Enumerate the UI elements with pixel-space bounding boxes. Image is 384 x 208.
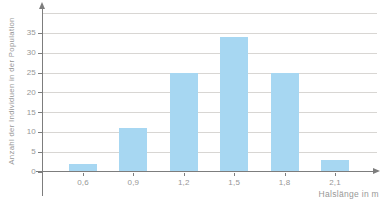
x-axis-tick xyxy=(335,173,336,176)
y-axis-line xyxy=(42,8,43,196)
x-tick-label: 1,5 xyxy=(218,178,250,187)
bar xyxy=(271,73,299,172)
x-tick-label: 0,9 xyxy=(117,178,149,187)
x-axis-arrow-icon xyxy=(373,168,380,174)
x-tick-label: 1,8 xyxy=(269,178,301,187)
x-axis-tick xyxy=(133,173,134,176)
x-axis-title: Halslänge in m xyxy=(319,189,379,199)
gridline xyxy=(43,132,377,133)
gridline xyxy=(43,152,377,153)
y-axis-title: Anzahl der Individuen in der Population xyxy=(7,1,19,181)
bar xyxy=(220,37,248,172)
x-tick-label: 1,2 xyxy=(168,178,200,187)
gridline xyxy=(43,73,377,74)
y-axis-arrow-icon xyxy=(39,2,45,9)
x-axis-tick xyxy=(184,173,185,176)
gridline xyxy=(43,92,377,93)
x-axis-line xyxy=(36,171,374,172)
gridline xyxy=(43,13,377,14)
x-axis-tick xyxy=(83,173,84,176)
plot-area: 051015202530350,60,91,21,51,82,1 xyxy=(0,0,384,208)
x-axis-tick xyxy=(234,173,235,176)
bar-chart: 051015202530350,60,91,21,51,82,1 Anzahl … xyxy=(0,0,384,208)
x-tick-label: 2,1 xyxy=(319,178,351,187)
gridline xyxy=(43,33,377,34)
bar xyxy=(170,73,198,172)
gridline xyxy=(43,112,377,113)
x-tick-label: 0,6 xyxy=(67,178,99,187)
x-axis-tick xyxy=(285,173,286,176)
bar xyxy=(119,128,147,172)
bar xyxy=(321,160,349,172)
gridline xyxy=(43,53,377,54)
